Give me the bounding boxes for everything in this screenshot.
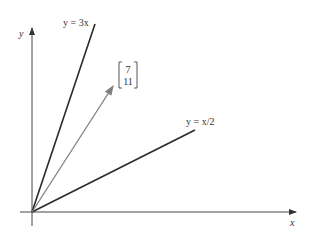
line-y-3x: [32, 24, 95, 212]
line-label-3x: y = 3x: [63, 17, 89, 28]
x-axis-label: x: [289, 217, 295, 228]
diagram-canvas: y x y = 3x y = x/2 7 11: [0, 0, 314, 242]
vector-component-2: 11: [123, 76, 133, 87]
line-label-x-half: y = x/2: [186, 116, 214, 127]
vector-matrix: 7 11: [119, 62, 137, 88]
y-axis-label: y: [18, 28, 24, 39]
vector-arrow: [32, 86, 113, 212]
vector-component-1: 7: [126, 64, 131, 75]
line-y-x-half: [32, 130, 195, 212]
